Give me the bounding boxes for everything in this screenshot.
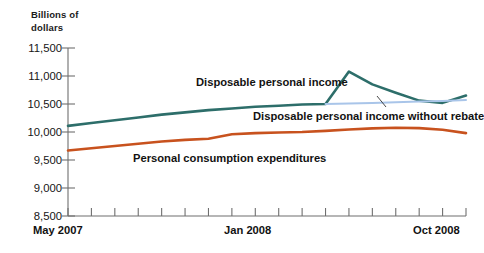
x-axis bbox=[68, 208, 466, 216]
series-label-personal-consumption-expenditures: Personal consumption expenditures bbox=[133, 152, 326, 164]
plot-area bbox=[0, 0, 484, 253]
chart-container: Billions of dollars 11,500 11,000 10,500… bbox=[0, 0, 484, 253]
x-tick-label-mid: Jan 2008 bbox=[224, 224, 271, 236]
y-axis bbox=[62, 48, 75, 216]
x-tick-label-end: Oct 2008 bbox=[413, 224, 460, 236]
annotation-leader-lines bbox=[377, 96, 386, 107]
series-label-disposable-personal-income: Disposable personal income bbox=[196, 76, 348, 88]
series-label-disposable-personal-income-without-rebate: Disposable personal income without rebat… bbox=[253, 110, 484, 122]
x-tick-label-start: May 2007 bbox=[33, 224, 83, 236]
